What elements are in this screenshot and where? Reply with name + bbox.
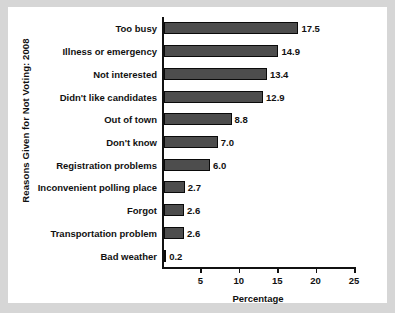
bar-value-label: 2.6 xyxy=(184,205,200,216)
bar-value-label: 8.8 xyxy=(232,114,248,125)
bar-row: Illness or emergency14.9 xyxy=(162,40,354,63)
bar-row: Out of town8.8 xyxy=(162,108,354,131)
bar xyxy=(164,45,278,57)
bar-value-label: 17.5 xyxy=(298,23,320,34)
x-tick xyxy=(277,267,279,273)
bar-value-label: 7.0 xyxy=(218,136,234,147)
x-tick-label: 5 xyxy=(198,275,203,286)
y-axis-title: Reasons Given for Not Voting: 2008 xyxy=(20,26,31,216)
x-tick xyxy=(200,267,202,273)
bar-value-label: 6.0 xyxy=(210,159,226,170)
bar xyxy=(164,68,267,80)
x-tick xyxy=(354,267,356,273)
bar-row: Transportation problem2.6 xyxy=(162,222,354,245)
category-label: Inconvenient polling place xyxy=(38,182,157,193)
category-label: Registration problems xyxy=(56,159,157,170)
category-label: Illness or emergency xyxy=(62,46,157,57)
bar-row: Registration problems6.0 xyxy=(162,153,354,176)
category-label: Don't know xyxy=(106,136,157,147)
bar-row: Forgot2.6 xyxy=(162,199,354,222)
bar-row: Too busy17.5 xyxy=(162,17,354,40)
x-tick-label: 20 xyxy=(310,275,321,286)
category-label: Transportation problem xyxy=(50,227,157,238)
x-tick-label: 15 xyxy=(272,275,283,286)
category-label: Not interested xyxy=(93,68,157,79)
x-axis-title: Percentage xyxy=(162,293,354,304)
bar-row: Don't know7.0 xyxy=(162,131,354,154)
bar-row: Inconvenient polling place2.7 xyxy=(162,176,354,199)
bar-row: Bad weather0.2 xyxy=(162,244,354,267)
category-label: Too busy xyxy=(115,23,157,34)
bar-value-label: 2.7 xyxy=(185,182,201,193)
bar-value-label: 14.9 xyxy=(278,46,300,57)
category-label: Bad weather xyxy=(101,250,158,261)
category-label: Didn't like candidates xyxy=(60,91,157,102)
bar-value-label: 2.6 xyxy=(184,227,200,238)
bar-value-label: 13.4 xyxy=(267,68,289,79)
category-label: Out of town xyxy=(104,114,157,125)
bar xyxy=(164,91,263,103)
category-label: Forgot xyxy=(127,205,157,216)
x-axis-line xyxy=(162,267,354,269)
bar xyxy=(164,22,298,34)
bar xyxy=(164,113,232,125)
plot-area: Too busy17.5Illness or emergency14.9Not … xyxy=(162,17,354,267)
bar xyxy=(164,204,184,216)
bar xyxy=(164,159,210,171)
bar xyxy=(164,181,185,193)
x-tick-label: 25 xyxy=(349,275,360,286)
bar-row: Not interested13.4 xyxy=(162,62,354,85)
chart-figure: Reasons Given for Not Voting: 2008 Too b… xyxy=(8,7,387,303)
bar xyxy=(164,227,184,239)
bar-row: Didn't like candidates12.9 xyxy=(162,85,354,108)
x-tick xyxy=(239,267,241,273)
x-tick-label: 10 xyxy=(234,275,245,286)
bar-value-label: 0.2 xyxy=(166,250,182,261)
x-tick xyxy=(316,267,318,273)
bar xyxy=(164,136,218,148)
bar-value-label: 12.9 xyxy=(263,91,285,102)
